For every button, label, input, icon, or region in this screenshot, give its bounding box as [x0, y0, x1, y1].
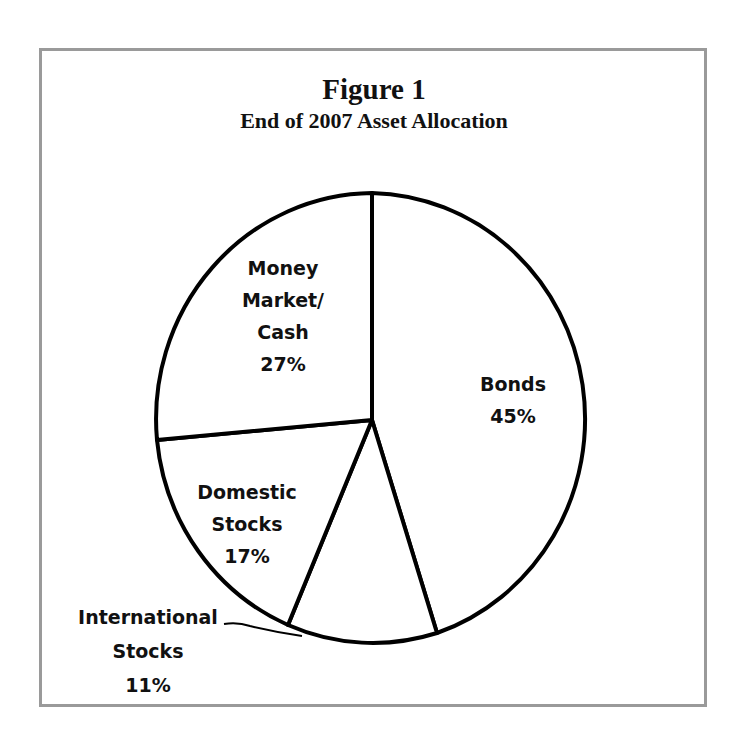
- label-bonds-pct: 45%: [490, 405, 535, 427]
- slice-money-market-cash: [156, 193, 372, 440]
- label-domestic-name-1: Domestic: [197, 481, 297, 503]
- label-domestic-name-2: Stocks: [211, 513, 282, 535]
- label-money-name-2: Market/: [242, 289, 324, 311]
- label-domestic-pct: 17%: [224, 545, 269, 567]
- label-bonds-name: Bonds: [480, 373, 546, 395]
- label-international-name-1: International: [78, 606, 218, 628]
- label-international-stocks: International Stocks 11%: [78, 606, 218, 696]
- pie-chart: Bonds 45% Money Market/ Cash 27% Domesti…: [0, 0, 748, 754]
- label-money-name-1: Money: [248, 257, 319, 279]
- label-international-pct: 11%: [125, 674, 170, 696]
- label-international-name-2: Stocks: [112, 640, 183, 662]
- label-money-name-3: Cash: [257, 321, 309, 343]
- label-money-pct: 27%: [260, 353, 305, 375]
